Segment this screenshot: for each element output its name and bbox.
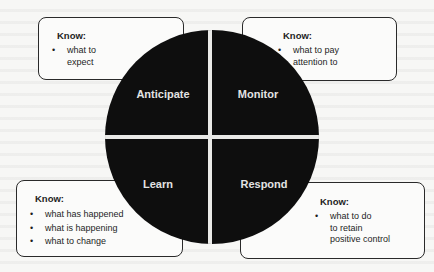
quadrant-monitor: Monitor [238, 88, 278, 100]
resilience-circle: Anticipate Monitor Learn Respond [105, 30, 319, 244]
quadrant-learn: Learn [143, 178, 173, 190]
list-item: what has happened [28, 208, 124, 222]
list-item: what is happening [28, 222, 124, 236]
quadrant-respond: Respond [240, 178, 287, 190]
box-title: Know: [57, 30, 86, 41]
list-item: what to doto retainpositive control [313, 211, 390, 246]
horizontal-divider [105, 135, 319, 139]
box-list: what has happened what is happening what… [28, 208, 124, 249]
list-item: what to change [28, 235, 124, 249]
list-item: what toexpect [50, 45, 96, 68]
box-title: Know: [320, 196, 349, 207]
box-title: Know: [35, 193, 64, 204]
box-list: what toexpect [50, 45, 96, 68]
quadrant-anticipate: Anticipate [136, 88, 189, 100]
box-title: Know: [283, 30, 312, 41]
box-list: what to doto retainpositive control [313, 211, 390, 246]
